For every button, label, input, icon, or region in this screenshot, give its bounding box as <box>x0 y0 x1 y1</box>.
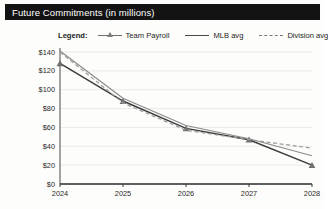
y-axis-tick-label: $20 <box>43 161 55 170</box>
x-axis-tick-label: 2027 <box>241 189 257 198</box>
y-axis-tick-label: $140 <box>39 48 55 57</box>
x-axis-tick-label: 2028 <box>304 189 320 198</box>
y-axis-tick-label: $100 <box>39 85 55 94</box>
y-axis-tick-label: $0 <box>47 180 55 189</box>
series-line <box>60 51 312 156</box>
data-point-marker <box>57 60 64 66</box>
y-axis-tick-label: $60 <box>43 123 55 132</box>
y-axis-tick-label: $40 <box>43 142 55 151</box>
y-axis-tick-label: $120 <box>39 66 55 75</box>
x-axis-tick-label: 2026 <box>178 189 194 198</box>
x-axis-tick-label: 2024 <box>52 189 68 198</box>
series-line <box>60 52 312 148</box>
series-line <box>60 63 312 165</box>
y-axis-tick-label: $80 <box>43 104 55 113</box>
x-axis-tick-label: 2025 <box>115 189 131 198</box>
